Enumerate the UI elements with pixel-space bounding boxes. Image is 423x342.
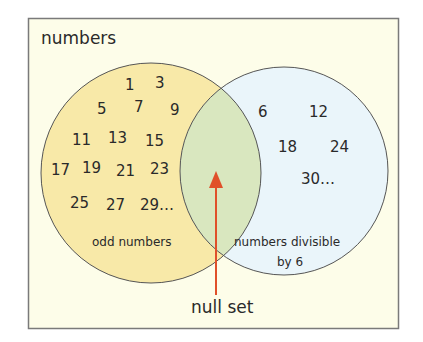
member: 9 — [170, 101, 180, 119]
divisible-by-6-label-line2: by 6 — [277, 255, 303, 269]
member: 3 — [155, 74, 165, 92]
odd-numbers-label: odd numbers — [92, 235, 171, 249]
member: 18 — [278, 138, 297, 156]
universe-label: numbers — [41, 28, 116, 48]
member: 5 — [97, 100, 107, 118]
member: 11 — [72, 131, 91, 149]
member: 13 — [108, 129, 127, 147]
member: 27 — [106, 196, 125, 214]
venn-diagram: numbers 1 3 5 7 9 11 13 15 17 19 21 23 2… — [0, 0, 423, 342]
null-set-label: null set — [191, 297, 254, 317]
member: 6 — [258, 103, 268, 121]
member: 25 — [70, 194, 89, 212]
divisible-by-6-label-line1: numbers divisible — [234, 235, 340, 249]
member: 24 — [330, 138, 349, 156]
member: 17 — [51, 161, 70, 179]
member: 23 — [150, 160, 169, 178]
member: 30… — [301, 170, 335, 188]
member: 19 — [82, 159, 101, 177]
member: 1 — [125, 76, 135, 94]
member: 15 — [145, 132, 164, 150]
member: 29… — [140, 196, 174, 214]
member: 21 — [116, 162, 135, 180]
member: 12 — [309, 103, 328, 121]
member: 7 — [134, 98, 144, 116]
